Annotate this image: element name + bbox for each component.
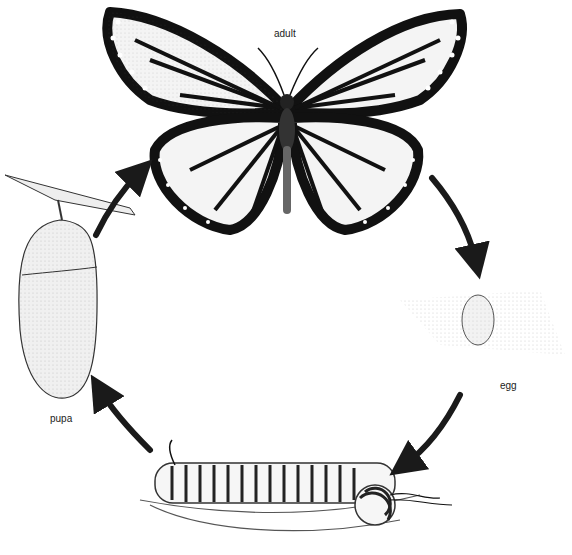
arrow-egg-to-larva [404,395,460,465]
pupa-label: pupa [50,413,72,424]
egg-illustration [400,290,565,355]
arrow-adult-to-egg [432,178,476,262]
adult-label: adult [274,28,296,39]
caterpillar-illustration [140,440,452,531]
egg-label: egg [500,380,517,391]
life-cycle-diagram [0,0,572,555]
adult-butterfly-illustration [107,12,462,230]
pupa-illustration [5,175,135,398]
arrow-larva-to-pupa [100,390,150,450]
